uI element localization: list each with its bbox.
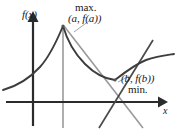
x-axis-label: x [163,106,167,116]
maximum-point-marker [61,24,64,27]
maximum-point-label: (a, f(a)) [68,13,101,24]
calculus-extrema-figure: max. (a, f(a)) (b, f(b)) min. f(x) x [0,0,176,129]
minimum-point-marker [113,78,116,81]
axes-group [6,11,168,126]
y-axis-label: f(x) [22,9,37,20]
minimum-label: min. [128,84,147,95]
